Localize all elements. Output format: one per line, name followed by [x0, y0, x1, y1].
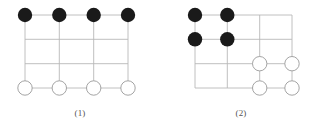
black-stone	[18, 8, 32, 22]
white-stone	[18, 81, 32, 95]
figure-1-diagram	[0, 0, 160, 105]
black-stone	[188, 8, 202, 22]
white-stone	[253, 81, 267, 95]
figure-2-diagram	[161, 0, 321, 105]
white-stone	[285, 57, 299, 71]
white-stone	[121, 81, 135, 95]
white-stone	[52, 81, 66, 95]
figure-2-caption: (2)	[161, 106, 321, 120]
figure-1-panel: (1)	[0, 0, 160, 133]
black-stone	[188, 32, 202, 46]
figure-1-caption: (1)	[0, 106, 160, 120]
white-stone	[87, 81, 101, 95]
black-stone	[220, 32, 234, 46]
white-stone	[285, 81, 299, 95]
stones	[188, 8, 299, 95]
black-stone	[121, 8, 135, 22]
stones	[18, 8, 135, 95]
grid-lines	[195, 15, 292, 88]
grid-lines	[25, 15, 128, 88]
black-stone	[220, 8, 234, 22]
black-stone	[52, 8, 66, 22]
white-stone	[253, 57, 267, 71]
black-stone	[87, 8, 101, 22]
figure-2-panel: (2)	[161, 0, 321, 133]
